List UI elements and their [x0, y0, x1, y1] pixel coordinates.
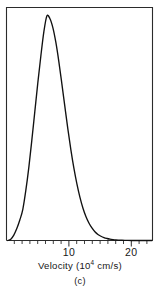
x-tick-label-10: 10	[63, 246, 75, 258]
x-axis-title: Velocity (104 cm/s)	[38, 259, 122, 271]
figure-caption: (c)	[74, 276, 86, 286]
velocity-distribution-plot: 10 20 Velocity (104 cm/s) (c)	[0, 0, 160, 288]
figure-container: 10 20 Velocity (104 cm/s) (c)	[0, 0, 160, 288]
x-axis-title-main: Velocity (10	[38, 260, 91, 271]
figure-background	[0, 0, 160, 288]
x-tick-label-20: 20	[125, 246, 137, 258]
x-axis-title-tail: cm/s)	[94, 260, 122, 271]
